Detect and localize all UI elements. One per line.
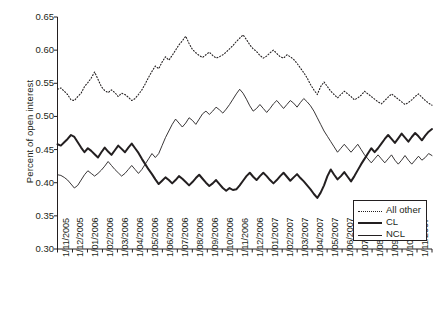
- x-tick-label: 1/12/2006: [256, 217, 266, 257]
- legend-label: CL: [386, 216, 398, 228]
- x-tick-label: 1/05/2006: [151, 217, 161, 257]
- x-tick-label: 1/11/2005: [62, 218, 72, 257]
- x-tick-label: 1/02/2006: [106, 217, 116, 257]
- legend-swatch-thick: [358, 222, 382, 224]
- x-tick-label: 1/09/2006: [211, 217, 221, 257]
- x-tick-label: 1/07/2006: [181, 217, 191, 257]
- chart-figure: Percent of open interest 0.300.350.400.4…: [0, 0, 435, 323]
- x-tick-label: 1/12/2005: [76, 217, 86, 257]
- x-tick-label: 1/04/2006: [136, 217, 146, 257]
- x-tick-label: 1/03/2007: [301, 217, 311, 257]
- x-tick-label: 1/10/2006: [226, 217, 236, 257]
- legend-label: NCL: [386, 228, 405, 240]
- legend-item: NCL: [358, 229, 426, 241]
- x-axis-tick-labels: 1/11/20051/12/20051/01/20061/02/20061/03…: [0, 0, 435, 323]
- x-tick-label: 1/02/2007: [286, 217, 296, 257]
- x-tick-label: 1/11/2006: [241, 218, 251, 257]
- x-tick-label: 1/04/2007: [316, 217, 326, 257]
- x-tick-label: 1/05/2007: [331, 217, 341, 257]
- x-tick-label: 1/08/2006: [196, 217, 206, 257]
- x-tick-label: 1/01/2006: [91, 217, 101, 257]
- x-tick-label: 1/03/2006: [121, 217, 131, 257]
- legend-swatch-thin: [358, 235, 382, 236]
- legend-swatch-dotted: [358, 211, 382, 212]
- chart-legend: All otherCLNCL: [353, 200, 427, 241]
- legend-label: All other: [386, 204, 421, 216]
- x-tick-label: 1/01/2007: [271, 217, 281, 257]
- x-tick-label: 1/06/2006: [166, 217, 176, 257]
